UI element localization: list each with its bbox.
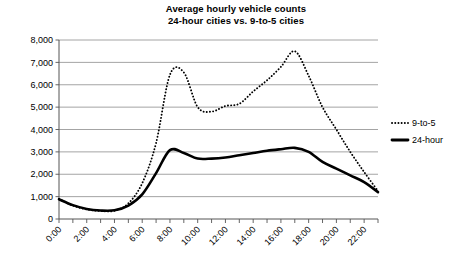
y-axis-label-group: 01,0002,0003,0004,0005,0006,0007,0008,00… (30, 35, 53, 224)
y-axis-tick-label: 6,000 (30, 80, 53, 90)
x-axis-tick-label: 2:00 (72, 224, 91, 243)
chart-legend: 9-to-524-hour (392, 118, 443, 145)
x-axis-tick-label: 18:00 (290, 224, 313, 247)
y-axis-tick-label: 3,000 (30, 147, 53, 157)
series-line-9-to-5 (59, 51, 378, 211)
x-axis-tick-label: 8:00 (155, 224, 174, 243)
x-axis-tick-label: 22:00 (346, 224, 369, 247)
x-axis-tick-label: 16:00 (262, 224, 285, 247)
y-axis-tick-label: 2,000 (30, 169, 53, 179)
x-axis-tick-group (59, 219, 378, 223)
data-series-group (59, 51, 378, 211)
x-axis-tick-label: 0:00 (44, 224, 63, 243)
legend-label: 24-hour (412, 135, 443, 145)
chart-plot: 01,0002,0003,0004,0005,0006,0007,0008,00… (0, 0, 472, 265)
y-axis-tick-group (56, 40, 60, 219)
chart-container: Average hourly vehicle counts 24-hour ci… (0, 0, 472, 265)
y-axis-tick-label: 5,000 (30, 102, 53, 112)
x-axis-tick-label: 10:00 (179, 224, 202, 247)
x-axis-label-group: 0:002:004:006:008:0010:0012:0014:0016:00… (44, 224, 369, 247)
y-axis-tick-label: 0 (48, 214, 53, 224)
x-axis-tick-label: 6:00 (127, 224, 146, 243)
x-axis-tick-label: 12:00 (207, 224, 230, 247)
y-axis-tick-label: 8,000 (30, 35, 53, 45)
gridline-group (59, 40, 378, 197)
series-line-24-hour (59, 148, 378, 211)
x-axis-tick-label: 14:00 (235, 224, 258, 247)
legend-label: 9-to-5 (412, 118, 436, 128)
y-axis-tick-label: 7,000 (30, 58, 53, 68)
y-axis-tick-label: 4,000 (30, 125, 53, 135)
y-axis-tick-label: 1,000 (30, 192, 53, 202)
x-axis-tick-label: 4:00 (99, 224, 118, 243)
x-axis-tick-label: 20:00 (318, 224, 341, 247)
